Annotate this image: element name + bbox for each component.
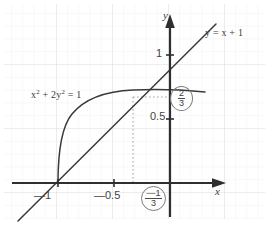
y-axis-label: y: [163, 10, 168, 21]
math-figure: y = x + 1 x2 + 2y2 = 1 y x 1 0.5 —1 —0.5…: [0, 0, 269, 226]
x-axis-label: x: [215, 186, 220, 197]
y-tick-label-1: 1: [156, 48, 162, 59]
fraction-denominator: 3: [178, 99, 185, 108]
line-equation-label: y = x + 1: [205, 28, 243, 38]
fraction-neg-one-third: —1 3: [145, 189, 161, 208]
ellipse-equation-label: x2 + 2y2 = 1: [31, 90, 82, 100]
fraction-two-thirds: 2 3: [178, 89, 185, 108]
circled-annotation-x-value: —1 3: [141, 186, 166, 211]
x-tick-label-neg1: —1: [34, 190, 51, 201]
x-tick-label-neg0point5: —0.5: [94, 190, 120, 201]
circled-annotation-y-value: 2 3: [170, 86, 193, 111]
y-tick-label-0point5: 0.5: [150, 111, 165, 122]
fraction-denominator: 3: [145, 199, 161, 208]
